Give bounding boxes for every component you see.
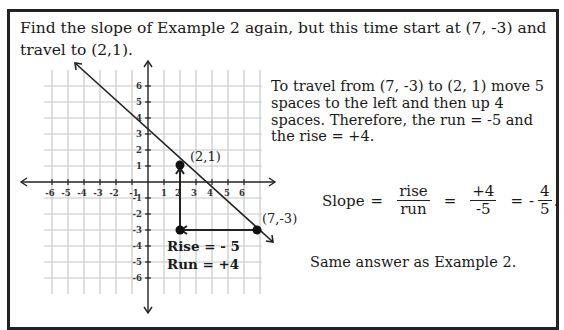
y-tick-label: 3: [136, 129, 142, 139]
simplified-fraction: 4 5: [538, 183, 552, 218]
y-tick-label: -2: [133, 209, 143, 219]
y-tick-label: 5: [136, 97, 142, 107]
slope-line: [75, 63, 273, 242]
y-tick-label: -3: [133, 225, 143, 235]
equals-sign: =: [444, 192, 457, 210]
fraction-denominator: 5: [540, 201, 550, 218]
point-2-1: [176, 161, 185, 170]
x-tick-label: 4: [207, 188, 213, 198]
x-tick-label: 3: [191, 188, 197, 198]
fraction-denominator: run: [400, 201, 427, 218]
x-tick-label: -3: [93, 188, 103, 198]
point-7-neg3: [253, 226, 262, 235]
fraction-numerator: rise: [397, 183, 430, 201]
conclusion-text: Same answer as Example 2.: [310, 254, 516, 270]
x-tick-label: 5: [224, 188, 230, 198]
y-tick-label: 2: [136, 145, 142, 155]
point-2-neg3: [176, 226, 185, 235]
y-tick-label: 1: [136, 161, 142, 171]
x-tick-label: 1: [161, 188, 167, 198]
equals-sign: =: [510, 192, 523, 210]
period: .: [554, 192, 559, 210]
equals-sign: =: [371, 192, 384, 210]
fraction-denominator: -5: [476, 201, 491, 218]
slope-label: Slope: [322, 192, 365, 210]
y-tick-label: -5: [133, 257, 143, 267]
point-label-7-neg3: (7,-3): [262, 211, 297, 226]
y-tick-label: 6: [136, 81, 142, 91]
negative-sign: -: [529, 192, 534, 210]
rise-over-run-fraction: rise run: [397, 183, 430, 218]
y-tick-label: -4: [133, 241, 143, 251]
explanation-text: To travel from (7, -3) to (2, 1) move 5 …: [271, 78, 561, 145]
point-label-2-1: (2,1): [190, 149, 221, 164]
coordinate-graph: -6 -5 -4 -3 -2 -1 1 2 3 4 5 6 6 5 4 3 2 …: [0, 0, 564, 330]
x-tick-label: -5: [61, 188, 71, 198]
y-tick-label: -6: [133, 273, 143, 283]
x-tick-label: -4: [77, 188, 87, 198]
run-label: Run = +4: [167, 256, 239, 272]
numeric-fraction: +4 -5: [470, 183, 496, 218]
fraction-numerator: 4: [538, 183, 552, 201]
rise-label: Rise = - 5: [167, 238, 240, 254]
x-tick-label: 6: [239, 188, 245, 198]
y-tick-label: -1: [133, 193, 143, 203]
x-tick-label: -2: [109, 188, 119, 198]
x-tick-label: -6: [45, 188, 55, 198]
fraction-numerator: +4: [470, 183, 496, 201]
slope-equation: Slope = rise run = +4 -5 = - 4 5 .: [322, 183, 558, 218]
